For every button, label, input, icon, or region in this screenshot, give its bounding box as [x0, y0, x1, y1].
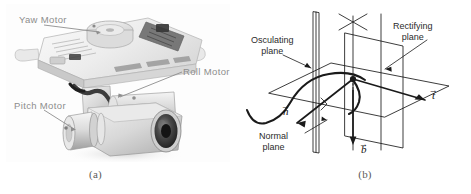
callout-label-pitch-motor: Pitch Motor — [14, 100, 66, 111]
binormal-vector-accent: → — [359, 139, 368, 149]
osculating-plane-line2: plane — [251, 46, 294, 57]
figure-root: Yaw Motor Roll Motor Pitch Motor (a) — [0, 0, 471, 194]
callout-label-yaw-motor: Yaw Motor — [19, 14, 67, 25]
tangent-vector-accent: → — [429, 85, 438, 95]
osculating-plane-line1: Osculating — [251, 35, 294, 46]
normal-vector-accent: → — [281, 101, 290, 111]
label-binormal-vector: → b — [361, 143, 367, 155]
label-osculating-plane: Osculating plane — [251, 35, 294, 56]
rectifying-plane-line1: Rectifying — [393, 21, 433, 32]
normal-plane-line2: plane — [259, 142, 288, 153]
label-normal-vector: → n — [283, 105, 289, 117]
label-rectifying-plane: Rectifying plane — [393, 21, 433, 42]
callout-label-roll-motor: Roll Motor — [183, 66, 230, 77]
panel-a-gimbal-photo: Yaw Motor Roll Motor Pitch Motor (a) — [0, 0, 235, 194]
label-tangent-vector: → t — [432, 89, 435, 101]
tangent-vector-arrow — [353, 79, 425, 100]
panel-a-caption: (a) — [0, 168, 213, 180]
normal-plane-line1: Normal — [259, 131, 288, 142]
label-normal-plane: Normal plane — [259, 131, 288, 152]
rectifying-plane-line2: plane — [393, 32, 433, 43]
plane-leader-lines — [283, 40, 427, 133]
binormal-vector-arrow — [350, 90, 357, 145]
panel-b-frenet-diagram: Osculating plane Rectifying plane Normal… — [235, 0, 471, 194]
frenet-frame-diagram: Osculating plane Rectifying plane Normal… — [235, 0, 471, 166]
panel-b-caption: (b) — [247, 168, 471, 180]
